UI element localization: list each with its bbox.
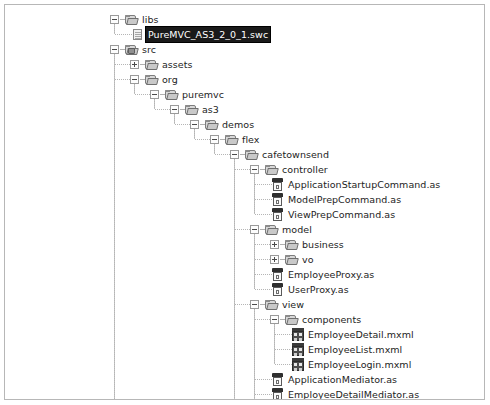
folder-icon (144, 73, 159, 86)
folder-icon (264, 223, 279, 236)
tree-node-label: vo (300, 252, 316, 267)
tree-guide-line (254, 174, 255, 214)
collapse-toggle-icon[interactable] (130, 75, 139, 84)
tree-connector (195, 139, 210, 140)
expand-toggle-icon[interactable] (130, 60, 139, 69)
tree-guide-line (214, 144, 215, 154)
tree-guide-line (254, 234, 255, 289)
tree-guide-line (254, 309, 255, 400)
folder-icon (264, 163, 279, 176)
tree-connector (115, 79, 130, 80)
tree-connector (115, 64, 130, 65)
collapse-toggle-icon[interactable] (210, 135, 219, 144)
file-icon (130, 28, 145, 41)
tree-node-label: EmployeeDetail.mxml (306, 327, 416, 342)
tree-connector (155, 109, 170, 110)
tree-node-label: UserProxy.as (286, 282, 351, 297)
tree-node-label: ApplicationStartupCommand.as (286, 177, 442, 192)
mxml-file-icon (290, 343, 305, 356)
tree-node-label: components (300, 312, 363, 327)
tree-connector (235, 229, 250, 230)
tree-node-label: ModelPrepCommand.as (286, 192, 403, 207)
tree-guide-line (134, 84, 135, 94)
tree-node-label: EmployeeList.mxml (306, 342, 404, 357)
expand-toggle-icon[interactable] (270, 240, 279, 249)
collapse-toggle-icon[interactable] (250, 225, 259, 234)
tree-connector (235, 169, 250, 170)
collapse-toggle-icon[interactable] (190, 120, 199, 129)
tree-node-label: src (140, 42, 158, 57)
tree-guide-line (154, 99, 155, 109)
tree-connector (255, 259, 270, 260)
folder-icon (224, 133, 239, 146)
expand-toggle-icon[interactable] (270, 255, 279, 264)
folder-icon (144, 58, 159, 71)
actionscript-file-icon (270, 283, 285, 296)
package-explorer-panel[interactable]: libsPureMVC_AS3_2_0_1.swcsrcassetsorgpur… (4, 4, 485, 400)
tree-node-label: ApplicationMediator.as (286, 372, 399, 387)
tree-node-label: puremvc (180, 87, 226, 102)
tree-node-label: ViewPrepCommand.as (286, 207, 397, 222)
actionscript-file-icon (270, 178, 285, 191)
tree-guide-line (174, 114, 175, 124)
tree-connector (175, 124, 190, 125)
tree-node-label: org (160, 72, 180, 87)
tree-guide-line (114, 54, 115, 400)
folder-icon (244, 148, 259, 161)
mxml-file-icon (290, 358, 305, 371)
collapse-toggle-icon[interactable] (250, 300, 259, 309)
tree-node-label: assets (160, 57, 195, 72)
tree-connector (255, 244, 270, 245)
tree-connector (235, 304, 250, 305)
collapse-toggle-icon[interactable] (110, 15, 119, 24)
tree-node-label: view (280, 297, 306, 312)
source-folder-icon (124, 43, 139, 56)
actionscript-file-icon (270, 268, 285, 281)
folder-icon (264, 298, 279, 311)
folder-icon (284, 313, 299, 326)
tree-connector (215, 154, 230, 155)
collapse-toggle-icon[interactable] (170, 105, 179, 114)
tree-node-label: cafetownsend (260, 147, 331, 162)
tree-node-label: model (280, 222, 314, 237)
tree-guide-line (274, 324, 275, 364)
tree-connector (255, 319, 270, 320)
folder-icon (184, 103, 199, 116)
collapse-toggle-icon[interactable] (110, 45, 119, 54)
tree-node-label: as3 (200, 102, 221, 117)
collapse-toggle-icon[interactable] (150, 90, 159, 99)
mxml-file-icon (290, 328, 305, 341)
collapse-toggle-icon[interactable] (230, 150, 239, 159)
actionscript-file-icon (270, 193, 285, 206)
folder-icon (164, 88, 179, 101)
tree-guide-line (234, 159, 235, 400)
tree-guide-line (194, 129, 195, 139)
collapse-toggle-icon[interactable] (250, 165, 259, 174)
folder-icon (284, 238, 299, 251)
tree-node-label: flex (240, 132, 261, 147)
actionscript-file-icon (270, 208, 285, 221)
tree-node-label: libs (140, 12, 160, 27)
folder-icon (284, 253, 299, 266)
tree-node-label: business (300, 237, 346, 252)
tree-node-label: EmployeeDetailMediator.as (286, 387, 421, 400)
tree-node-label: controller (280, 162, 330, 177)
tree-node-label: demos (220, 117, 256, 132)
actionscript-file-icon (270, 373, 285, 386)
tree-node-label: EmployeeLogin.mxml (306, 357, 413, 372)
collapse-toggle-icon[interactable] (270, 315, 279, 324)
folder-icon (124, 13, 139, 26)
actionscript-file-icon (270, 388, 285, 400)
tree-guide-line (114, 24, 115, 34)
folder-icon (204, 118, 219, 131)
tree-node-label: EmployeeProxy.as (286, 267, 376, 282)
tree-node-label: PureMVC_AS3_2_0_1.swc (146, 27, 270, 42)
tree-connector (135, 94, 150, 95)
